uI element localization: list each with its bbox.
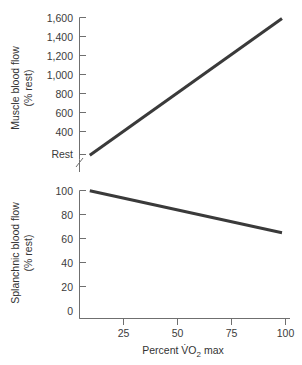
muscle-y-axis-title-line2: (% rest) (22, 70, 34, 107)
muscle-ytick-label-1400: 1,400 (47, 31, 73, 43)
muscle-y-axis-title: Muscle blood flow (% rest) (9, 46, 34, 130)
splanchnic-ytick-label-60: 60 (61, 233, 73, 245)
xtick-label-25: 25 (118, 327, 130, 339)
blood-flow-dual-line-chart: Muscle blood flow (% rest) 1,600 1,400 1… (0, 0, 302, 365)
muscle-ytick-label-600: 600 (55, 107, 73, 119)
figure-container: Muscle blood flow (% rest) 1,600 1,400 1… (0, 0, 302, 365)
panel-splanchnic-blood-flow: Splanchnic blood flow (% rest) 100 80 60… (9, 185, 294, 360)
muscle-ytick-label-800: 800 (55, 88, 73, 100)
x-axis-title-suffix: max (201, 344, 225, 356)
y-axis-break-icon (76, 158, 83, 172)
splanchnic-y-axis-title-line2: (% rest) (22, 235, 34, 272)
x-axis-title: Percent V̇O2 max (142, 344, 224, 359)
panel-muscle-blood-flow: Muscle blood flow (% rest) 1,600 1,400 1… (9, 12, 282, 173)
muscle-ytick-label-1000: 1,000 (47, 69, 73, 81)
splanchnic-ytick-label-40: 40 (61, 257, 73, 269)
muscle-ytick-label-400: 400 (55, 126, 73, 138)
splanchnic-ytick-label-0: 0 (67, 305, 73, 317)
x-axis-title-prefix: Percent V̇O (142, 344, 196, 356)
muscle-y-axis-title-line1: Muscle blood flow (9, 46, 21, 130)
xtick-label-100: 100 (277, 327, 295, 339)
xtick-label-50: 50 (172, 327, 184, 339)
muscle-ytick-label-1200: 1,200 (47, 50, 73, 62)
splanchnic-ytick-label-20: 20 (61, 281, 73, 293)
splanchnic-ytick-label-80: 80 (61, 209, 73, 221)
splanchnic-ytick-label-100: 100 (55, 185, 73, 197)
muscle-ytick-label-rest: Rest (51, 148, 73, 160)
xtick-label-75: 75 (226, 327, 238, 339)
splanchnic-y-axis-title: Splanchnic blood flow (% rest) (9, 202, 34, 304)
splanchnic-y-axis-title-line1: Splanchnic blood flow (9, 202, 21, 304)
muscle-blood-flow-line (90, 19, 282, 156)
muscle-ytick-label-1600: 1,600 (47, 12, 73, 24)
splanchnic-blood-flow-line (90, 191, 282, 233)
